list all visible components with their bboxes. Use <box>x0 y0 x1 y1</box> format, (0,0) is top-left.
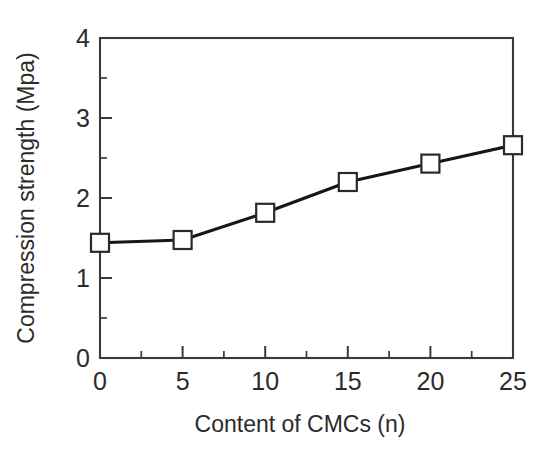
y-axis-tick-labels: 0 1 2 3 4 <box>76 24 90 372</box>
chart-figure: 0 1 2 3 4 0 5 10 15 20 25 Content of CMC… <box>0 0 542 462</box>
x-tick-label-3: 15 <box>334 367 362 395</box>
x-tick-label-0: 0 <box>93 367 107 395</box>
y-tick-label-3: 3 <box>76 104 90 132</box>
line-chart: 0 1 2 3 4 0 5 10 15 20 25 Content of CMC… <box>0 0 542 462</box>
data-point-2 <box>256 204 274 222</box>
x-tick-label-2: 10 <box>251 367 279 395</box>
y-axis-title: Compression strength (Mpa) <box>13 52 39 343</box>
data-point-3 <box>339 173 357 191</box>
y-tick-label-4: 4 <box>76 24 90 52</box>
y-axis-major-ticks <box>100 38 112 358</box>
y-tick-label-2: 2 <box>76 184 90 212</box>
data-point-1 <box>174 231 192 249</box>
x-tick-label-5: 25 <box>499 367 527 395</box>
data-point-5 <box>504 136 522 154</box>
data-markers <box>91 136 522 252</box>
data-series-line <box>100 145 513 243</box>
x-tick-label-1: 5 <box>176 367 190 395</box>
data-point-4 <box>421 155 439 173</box>
x-tick-label-4: 20 <box>416 367 444 395</box>
data-point-0 <box>91 234 109 252</box>
x-axis-title: Content of CMCs (n) <box>195 411 406 437</box>
x-axis-tick-labels: 0 5 10 15 20 25 <box>93 367 527 395</box>
y-tick-label-0: 0 <box>76 344 90 372</box>
y-tick-label-1: 1 <box>76 264 90 292</box>
